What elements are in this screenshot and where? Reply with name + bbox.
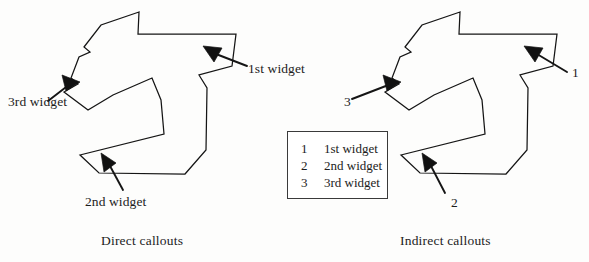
caption-indirect-callouts: Indirect callouts — [400, 234, 491, 248]
leader-line-callout-2 — [431, 166, 445, 193]
legend-row: 1 1st widget — [288, 141, 387, 158]
legend-list: 1 1st widget 2 2nd widget 3 3rd widget — [288, 132, 387, 192]
legend-key: 2 — [301, 158, 324, 174]
callout-number-3: 3 — [344, 95, 351, 109]
leader-line-first-widget — [216, 54, 247, 66]
legend-label: 1st widget — [324, 141, 378, 157]
widget-shape-path — [64, 12, 236, 174]
legend-row: 2 2nd widget — [288, 158, 387, 175]
panel-direct-callouts: 1st widget 2nd widget 3rd widget Direct … — [0, 0, 294, 262]
figure-callout-comparison: 1st widget 2nd widget 3rd widget Direct … — [0, 0, 589, 262]
legend-label: 2nd widget — [324, 158, 382, 174]
caption-direct-callouts: Direct callouts — [101, 234, 183, 248]
callout-label-third-widget: 3rd widget — [8, 95, 67, 109]
legend-key: 3 — [301, 175, 324, 191]
arrowhead-callout-1 — [524, 46, 543, 62]
widget-outline-direct — [0, 0, 294, 262]
callout-label-second-widget: 2nd widget — [85, 195, 146, 209]
legend-box: 1 1st widget 2 2nd widget 3 3rd widget — [287, 131, 388, 199]
arrowhead-callout-2 — [422, 153, 437, 172]
leader-line-second-widget — [110, 166, 123, 190]
callout-number-1: 1 — [572, 66, 579, 80]
arrowhead-second-widget — [101, 153, 116, 172]
widget-shape-path — [385, 12, 557, 174]
legend-row: 3 3rd widget — [288, 175, 387, 192]
arrowhead-first-widget — [203, 46, 222, 62]
callout-number-2: 2 — [451, 196, 458, 210]
legend-key: 1 — [301, 141, 324, 157]
legend-label: 3rd widget — [324, 175, 380, 191]
